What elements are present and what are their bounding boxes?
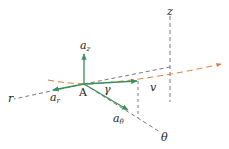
r-axis-label: r <box>8 93 13 104</box>
a-theta-sub: θ <box>120 118 124 126</box>
theta-axis-label: θ <box>161 132 168 143</box>
z-axis-label: z <box>167 6 173 17</box>
a-z-sub: z <box>87 45 91 53</box>
a-z-label: az <box>80 40 90 53</box>
a-theta-label: aθ <box>113 113 124 126</box>
velocity-label: v <box>150 82 156 93</box>
a-r-label: ar <box>50 92 60 105</box>
a-r-sub: r <box>57 97 60 105</box>
point-a-label: A <box>79 87 87 98</box>
acceleration-diagram <box>0 0 229 149</box>
gamma-label: γ <box>104 84 111 95</box>
